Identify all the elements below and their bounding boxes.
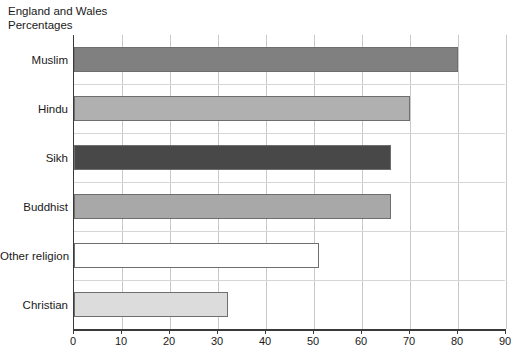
bar-other-religion bbox=[74, 243, 319, 268]
y-axis-label-christian: Christian bbox=[0, 299, 68, 311]
x-tick-label-90: 90 bbox=[499, 335, 511, 347]
x-tick-mark-20 bbox=[169, 329, 170, 334]
x-tick-mark-60 bbox=[361, 329, 362, 334]
bar-hindu bbox=[74, 96, 410, 121]
bar-series bbox=[74, 35, 505, 329]
x-tick-mark-30 bbox=[217, 329, 218, 334]
x-tick-label-60: 60 bbox=[355, 335, 367, 347]
x-tick-mark-40 bbox=[265, 329, 266, 334]
x-tick-label-80: 80 bbox=[451, 335, 463, 347]
x-tick-mark-90 bbox=[505, 329, 506, 334]
x-tick-label-50: 50 bbox=[307, 335, 319, 347]
x-tick-label-70: 70 bbox=[403, 335, 415, 347]
y-axis-label-sikh: Sikh bbox=[0, 152, 68, 164]
x-tick-mark-0 bbox=[73, 329, 74, 334]
bar-chart: England and Wales Percentages MuslimHind… bbox=[0, 0, 511, 354]
page-title: England and Wales bbox=[8, 4, 107, 18]
chart-title-block: England and Wales Percentages bbox=[8, 4, 107, 32]
y-axis-label-buddhist: Buddhist bbox=[0, 201, 68, 213]
x-tick-label-0: 0 bbox=[70, 335, 76, 347]
x-tick-mark-70 bbox=[409, 329, 410, 334]
y-axis-label-muslim: Muslim bbox=[0, 54, 68, 66]
x-tick-mark-50 bbox=[313, 329, 314, 334]
bar-christian bbox=[74, 292, 228, 317]
x-tick-label-40: 40 bbox=[259, 335, 271, 347]
x-axis-ticks: 0102030405060708090 bbox=[73, 329, 506, 351]
gridline-x-90 bbox=[506, 35, 507, 329]
chart-subtitle: Percentages bbox=[8, 18, 107, 32]
bar-buddhist bbox=[74, 194, 391, 219]
bar-sikh bbox=[74, 145, 391, 170]
x-tick-label-10: 10 bbox=[115, 335, 127, 347]
x-tick-mark-10 bbox=[121, 329, 122, 334]
x-tick-mark-80 bbox=[457, 329, 458, 334]
y-axis-category-labels: MuslimHinduSikhBuddhistOther religionChr… bbox=[0, 35, 68, 329]
x-tick-label-30: 30 bbox=[211, 335, 223, 347]
y-axis-label-other-religion: Other religion bbox=[0, 250, 68, 262]
y-axis-label-hindu: Hindu bbox=[0, 103, 68, 115]
bar-muslim bbox=[74, 47, 458, 72]
plot-area bbox=[73, 35, 505, 329]
x-tick-label-20: 20 bbox=[163, 335, 175, 347]
